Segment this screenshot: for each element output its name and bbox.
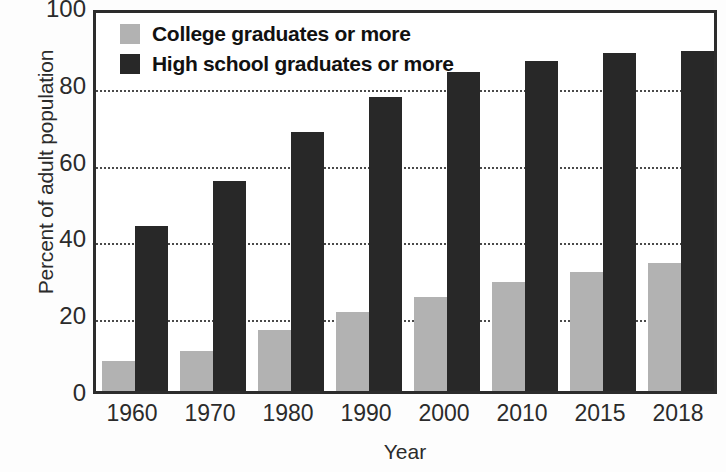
bar-highschool-2010 [525,61,558,391]
x-axis-title: Year [93,440,717,464]
x-tick-label-2010: 2010 [496,400,547,427]
bar-college-1990 [336,312,369,391]
x-tick-label-2015: 2015 [574,400,625,427]
legend-item-highschool: High school graduates or more [120,51,454,77]
plot-inner: College graduates or more High school gr… [96,13,714,391]
x-tick-label-1970: 1970 [184,400,235,427]
y-tick-label: 0 [8,381,86,405]
x-tick-label-2000: 2000 [418,400,469,427]
bar-college-2000 [414,297,447,391]
bar-highschool-2018 [681,51,714,391]
y-tick-label: 100 [8,0,86,21]
legend: College graduates or more High school gr… [120,21,454,77]
y-axis-tick-labels: 020406080100 [0,0,86,472]
x-tick-label-1980: 1980 [262,400,313,427]
legend-swatch-highschool-icon [120,54,140,74]
y-tick-label: 80 [8,74,86,98]
bar-highschool-1990 [369,97,402,391]
bar-highschool-1980 [291,132,324,391]
bar-chart-figure: Percent of adult population 020406080100… [0,0,726,472]
bar-college-1970 [180,351,213,391]
legend-label-college: College graduates or more [152,22,411,46]
bar-college-1960 [102,361,135,391]
y-tick-label: 20 [8,304,86,328]
bar-college-2018 [648,263,681,391]
bar-college-2010 [492,282,525,391]
x-tick-label-2018: 2018 [652,400,703,427]
plot-area: College graduates or more High school gr… [93,10,717,394]
legend-swatch-college-icon [120,24,140,44]
x-axis-tick-labels: 19601970198019902000201020152018 [93,400,717,434]
bar-college-1980 [258,330,291,391]
x-tick-label-1990: 1990 [340,400,391,427]
bar-highschool-1970 [213,181,246,391]
bar-highschool-2000 [447,72,480,391]
bar-college-2015 [570,272,603,391]
legend-label-highschool: High school graduates or more [152,52,454,76]
y-tick-label: 60 [8,151,86,175]
y-tick-label: 40 [8,227,86,251]
x-tick-label-1960: 1960 [106,400,157,427]
bar-highschool-1960 [135,226,168,391]
bar-highschool-2015 [603,53,636,391]
legend-item-college: College graduates or more [120,21,454,47]
